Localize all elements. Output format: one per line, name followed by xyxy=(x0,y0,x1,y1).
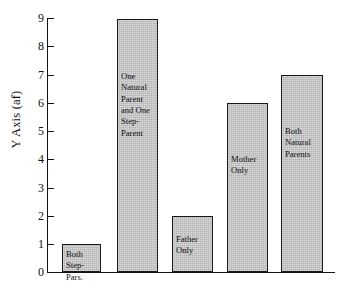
bar-label-mother-only: Mother Only xyxy=(228,154,267,177)
y-tick-label-0: 0 xyxy=(22,266,44,278)
y-tick-6 xyxy=(48,103,54,104)
bar-label-one-natural-parent-and-one-step-parent: One Natural Parent and One Step- Parent xyxy=(118,71,157,139)
bar-both-natural-parents: Both Natural Parents xyxy=(281,75,323,272)
y-tick-8 xyxy=(48,46,54,47)
y-tick-label-4: 4 xyxy=(22,153,44,165)
y-tick-label-9: 9 xyxy=(22,12,44,24)
y-tick-label-7: 7 xyxy=(22,69,44,81)
bar-label-both-step-pars: Both Step-Pars. xyxy=(63,249,100,283)
y-tick-4 xyxy=(48,159,54,160)
y-axis-line xyxy=(47,18,48,273)
bar-chart: Y Axis (af) 9 8 7 6 5 4 3 2 1 0 Both Ste… xyxy=(0,0,348,291)
y-tick-label-1: 1 xyxy=(22,238,44,250)
y-tick-label-8: 8 xyxy=(22,40,44,52)
y-tick-5 xyxy=(48,131,54,132)
y-tick-label-5: 5 xyxy=(22,125,44,137)
bar-both-step-pars: Both Step-Pars. xyxy=(62,244,101,272)
bar-mother-only: Mother Only xyxy=(227,103,268,272)
y-tick-9 xyxy=(48,18,54,19)
bar-one-natural-parent-and-one-step-parent: One Natural Parent and One Step- Parent xyxy=(117,19,158,272)
y-tick-label-3: 3 xyxy=(22,182,44,194)
y-tick-2 xyxy=(48,216,54,217)
y-tick-label-6: 6 xyxy=(22,97,44,109)
bar-label-father-only: Father Only xyxy=(173,234,212,257)
bar-label-both-natural-parents: Both Natural Parents xyxy=(282,126,322,160)
y-tick-0 xyxy=(48,272,54,273)
y-tick-1 xyxy=(48,244,54,245)
bar-father-only: Father Only xyxy=(172,216,213,272)
y-tick-label-2: 2 xyxy=(22,210,44,222)
y-tick-3 xyxy=(48,188,54,189)
y-tick-7 xyxy=(48,75,54,76)
